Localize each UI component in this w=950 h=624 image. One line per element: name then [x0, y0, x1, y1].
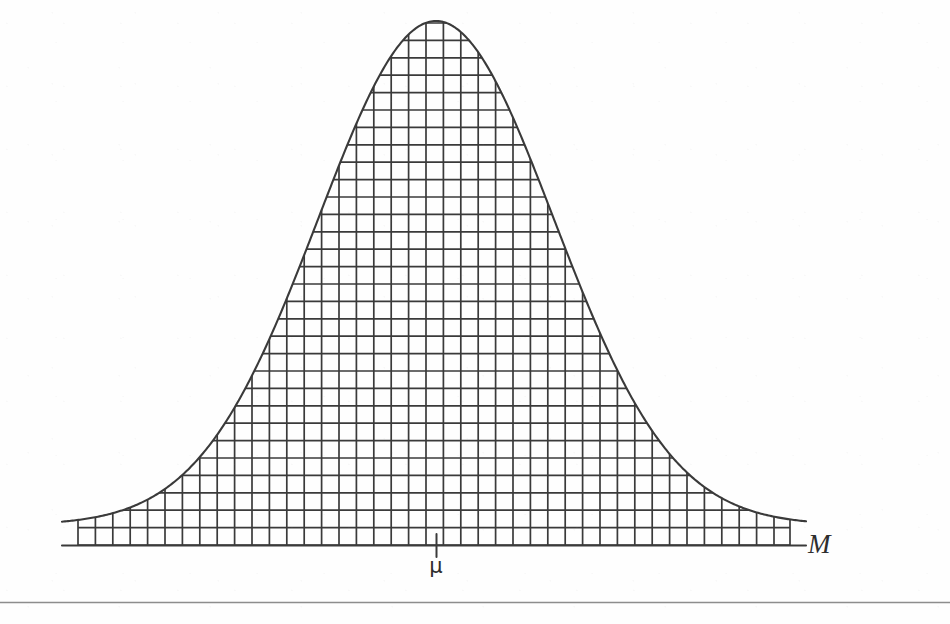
- gaussian-curve: [62, 21, 806, 522]
- distribution-figure-svg: μ M: [0, 0, 950, 624]
- axis-variable-label: M: [807, 529, 832, 559]
- mean-label: μ: [429, 554, 442, 578]
- figure-root: μ M: [0, 0, 950, 624]
- hatch-grid: [78, 0, 790, 545]
